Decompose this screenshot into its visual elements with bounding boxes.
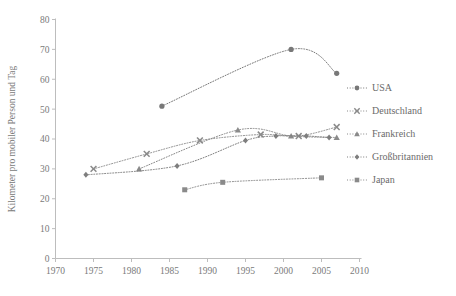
x-axis: 197019751980198519901995200020052010 <box>46 259 369 276</box>
data-point <box>159 104 164 109</box>
legend-marker-diamond-icon <box>346 152 368 162</box>
data-point <box>327 135 332 141</box>
legend-item-deutschland[interactable]: Deutschland <box>346 99 456 122</box>
data-point <box>243 137 248 143</box>
data-point <box>182 187 187 192</box>
legend-marker-triangle-icon <box>346 129 368 139</box>
data-point <box>83 172 88 178</box>
chart-legend: USADeutschlandFrankreichGroßbritannienJa… <box>346 76 456 191</box>
legend-item-frankreich[interactable]: Frankreich <box>346 122 456 145</box>
data-point <box>220 180 225 185</box>
y-tick-label: 80 <box>40 15 50 25</box>
legend-marker-square-icon <box>346 175 368 185</box>
chart-container: 01020304050607080 1970197519801985199019… <box>0 0 456 296</box>
x-tick-label: 1975 <box>84 266 103 276</box>
legend-item-japan[interactable]: Japan <box>346 168 456 191</box>
x-tick-label: 2005 <box>312 266 331 276</box>
legend-label: USA <box>372 82 392 93</box>
x-tick-label: 1995 <box>236 266 255 276</box>
y-tick-label: 40 <box>40 134 50 144</box>
series-usa <box>159 47 339 109</box>
legend-item-gro-britannien[interactable]: Großbritannien <box>346 145 456 168</box>
data-point <box>144 151 150 157</box>
data-point <box>136 166 142 172</box>
legend-marker-circle-icon <box>346 83 368 93</box>
x-tick-label: 2010 <box>350 266 369 276</box>
series-deutschland <box>91 124 340 172</box>
legend-label: Deutschland <box>372 105 422 116</box>
y-axis: 01020304050607080 <box>40 15 56 264</box>
data-point <box>319 175 324 180</box>
x-tick-label: 1980 <box>122 266 141 276</box>
legend-label: Großbritannien <box>372 151 433 162</box>
data-series-group <box>83 47 339 193</box>
data-point <box>91 166 97 172</box>
data-point <box>334 71 339 76</box>
series-japan <box>182 175 324 192</box>
y-tick-label: 10 <box>40 224 50 234</box>
y-tick-label: 20 <box>40 194 50 204</box>
data-point <box>304 133 309 139</box>
y-axis-title: Kilometer pro mobiler Person und Tag <box>7 65 17 212</box>
y-tick-label: 50 <box>40 105 50 115</box>
series-frankreich <box>136 127 340 171</box>
x-tick-label: 1970 <box>46 266 65 276</box>
legend-label: Japan <box>372 174 395 185</box>
x-tick-label: 2000 <box>274 266 293 276</box>
legend-label: Frankreich <box>372 128 415 139</box>
data-point <box>289 47 294 52</box>
x-tick-label: 1985 <box>160 266 179 276</box>
x-tick-label: 1990 <box>198 266 217 276</box>
legend-item-usa[interactable]: USA <box>346 76 456 99</box>
y-tick-label: 0 <box>45 254 50 264</box>
y-axis-label: Kilometer pro mobiler Person und Tag <box>7 65 17 212</box>
legend-marker-cross-icon <box>346 106 368 116</box>
data-point <box>175 163 180 169</box>
y-tick-label: 30 <box>40 164 50 174</box>
data-point <box>273 133 278 139</box>
y-tick-label: 70 <box>40 45 50 55</box>
y-tick-label: 60 <box>40 75 50 85</box>
